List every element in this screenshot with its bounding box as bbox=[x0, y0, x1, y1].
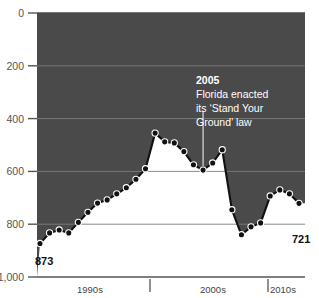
data-point-2007 bbox=[219, 147, 225, 153]
annotation-line-1: Florida enacted bbox=[196, 88, 269, 100]
data-point-1998 bbox=[133, 176, 139, 182]
data-point-1995 bbox=[104, 197, 110, 203]
data-point-2009 bbox=[238, 232, 244, 238]
data-point-2002 bbox=[171, 140, 177, 146]
data-point-2001 bbox=[162, 139, 168, 145]
data-point-2014 bbox=[286, 191, 292, 197]
y-tick-label-200: 200 bbox=[6, 60, 24, 72]
x-tick-label-1990s: 1990s bbox=[77, 284, 103, 295]
data-point-1996 bbox=[114, 191, 120, 197]
y-tick-label-0: 0 bbox=[18, 7, 24, 19]
data-point-1997 bbox=[123, 185, 129, 191]
y-axis-tick-labels: 02004006008001,000 bbox=[0, 7, 24, 283]
data-point-2003 bbox=[181, 149, 187, 155]
first-point-label: 873 bbox=[35, 255, 53, 267]
data-point-2011 bbox=[258, 220, 264, 226]
annotation-year: 2005 bbox=[196, 74, 220, 86]
data-point-1993 bbox=[85, 209, 91, 215]
line-chart: 02004006008001,000 1990s 2000s 2010s 200… bbox=[0, 0, 319, 298]
data-point-2000 bbox=[152, 130, 158, 136]
y-tick-label-1,000: 1,000 bbox=[0, 271, 24, 283]
data-point-1999 bbox=[142, 166, 148, 172]
annotation-line-3: Ground’ law bbox=[196, 116, 252, 128]
data-point-1990 bbox=[56, 227, 62, 233]
x-tick-label-2010s: 2010s bbox=[270, 284, 296, 295]
data-point-2008 bbox=[229, 207, 235, 213]
data-point-2012 bbox=[267, 193, 273, 199]
data-point-2013 bbox=[277, 187, 283, 193]
y-tick-label-800: 800 bbox=[6, 218, 24, 230]
data-point-1988 bbox=[37, 240, 43, 246]
data-point-1989 bbox=[46, 230, 52, 236]
annotation-line-2: its ‘Stand Your bbox=[196, 102, 264, 114]
data-point-1992 bbox=[75, 219, 81, 225]
data-point-2005 bbox=[200, 167, 206, 173]
y-tick-label-600: 600 bbox=[6, 165, 24, 177]
data-point-2015 bbox=[296, 200, 302, 206]
x-axis-tick-labels: 1990s 2000s 2010s bbox=[77, 284, 296, 295]
chart-container: 02004006008001,000 1990s 2000s 2010s 200… bbox=[0, 0, 319, 298]
data-point-1991 bbox=[66, 230, 72, 236]
data-point-2010 bbox=[248, 224, 254, 230]
data-point-2006 bbox=[210, 160, 216, 166]
data-point-1994 bbox=[94, 200, 100, 206]
data-point-2004 bbox=[190, 162, 196, 168]
last-point-label: 721 bbox=[292, 233, 310, 245]
x-tick-label-2000s: 2000s bbox=[200, 284, 226, 295]
y-tick-label-400: 400 bbox=[6, 113, 24, 125]
